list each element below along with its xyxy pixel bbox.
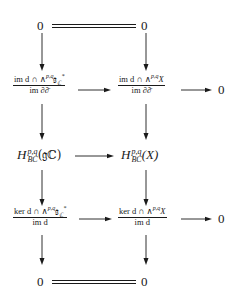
equality-bottom [52,280,136,284]
denominator: im d [32,218,47,228]
arrow-down-icon [141,33,151,73]
node-quotient-ker-x: ker d ∩ ∧p,qX im d [118,207,167,227]
arrow-right-icon [79,216,113,222]
node-bottom-right-zero: 0 [141,275,148,288]
node-row2-end-zero: 0 [218,83,225,96]
arrow-down-icon [37,104,47,142]
arrow-right-icon [78,87,112,93]
arrow-down-icon [141,170,151,208]
node-bott-chern-x: Hp,qBC(X) [121,148,158,164]
node-quotient-im-g: im d ∩ ∧p,q𝔤ℂ* im ∂∂̄ [13,75,65,95]
arrow-right-icon [75,153,115,159]
node-bottom-left-zero: 0 [37,275,44,288]
denominator: im ∂∂̄ [132,86,152,96]
numerator: ker d ∩ ∧p,q𝔤ℂ* [13,207,67,218]
numerator: ker d ∩ ∧p,qX [118,207,167,218]
numerator: im d ∩ ∧p,qX [118,75,165,86]
arrow-down-icon [37,235,47,267]
denominator: im ∂∂̄ [29,86,49,96]
arrow-down-icon [141,235,151,267]
node-top-left-zero: 0 [37,19,44,32]
numerator: im d ∩ ∧p,q𝔤ℂ* [13,75,65,86]
denominator: im d [135,218,150,228]
arrow-right-icon [181,216,213,222]
node-row4-end-zero: 0 [218,212,225,225]
arrow-right-icon [181,87,213,93]
equality-top [52,24,136,28]
node-quotient-ker-g: ker d ∩ ∧p,q𝔤ℂ* im d [13,207,67,227]
arrow-down-icon [37,33,47,73]
node-top-right-zero: 0 [141,19,148,32]
arrow-down-icon [37,170,47,208]
node-bott-chern-g: Hp,qBC(𝔤ℂ) [17,148,62,164]
node-quotient-im-x: im d ∩ ∧p,qX im ∂∂̄ [118,75,165,95]
arrow-down-icon [141,104,151,142]
